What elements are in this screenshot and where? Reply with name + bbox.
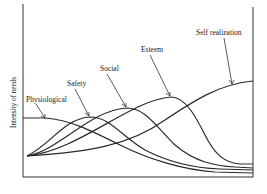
arrow-esteem [150, 55, 170, 96]
arrow-social [107, 74, 126, 107]
label-safety: Safety [67, 79, 86, 88]
label-social: Social [100, 64, 119, 73]
arrow-safety [75, 89, 89, 116]
arrow-self-realization [224, 38, 234, 84]
label-physiological: Physiological [26, 95, 67, 104]
label-self-realization: Self realization [196, 28, 242, 37]
curve-safety [27, 117, 253, 170]
needs-chart: Intensity of needs Physiological Safety … [0, 0, 267, 194]
arrow-physiological [36, 104, 45, 118]
curve-social [27, 108, 253, 168]
curve-self-realization [27, 81, 253, 156]
label-esteem: Esteem [141, 45, 163, 54]
y-axis-label: Intensity of needs [10, 77, 18, 128]
